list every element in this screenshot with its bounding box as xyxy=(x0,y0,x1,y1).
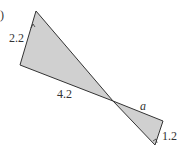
similar-triangles-diagram: ) 2.2 4.2 a 1.2 xyxy=(0,0,179,154)
label-right-side: 1.2 xyxy=(162,129,177,143)
small-triangle xyxy=(113,101,163,145)
label-bottom-side: 4.2 xyxy=(57,87,72,101)
label-unknown-side: a xyxy=(140,99,146,113)
label-left-side: 2.2 xyxy=(9,31,24,45)
part-marker: ) xyxy=(0,8,4,22)
